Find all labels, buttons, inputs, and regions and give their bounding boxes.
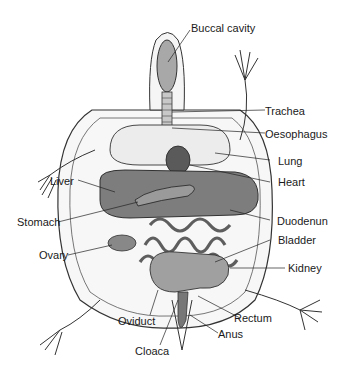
- ovary-shape: [108, 235, 136, 251]
- label-trachea: Trachea: [265, 105, 305, 117]
- label-oviduct: Oviduct: [118, 315, 155, 327]
- label-stomach: Stomach: [17, 216, 60, 228]
- label-duodenum: Duodenun: [277, 215, 328, 227]
- label-anus: Anus: [218, 328, 243, 340]
- label-liver: Liver: [50, 175, 74, 187]
- label-bladder: Bladder: [278, 234, 316, 246]
- label-cloaca: Cloaca: [135, 345, 169, 357]
- left-hindlimb: [40, 300, 100, 355]
- label-kidney: Kidney: [288, 262, 322, 274]
- label-heart: Heart: [278, 176, 305, 188]
- label-buccal-cavity: Buccal cavity: [191, 22, 255, 34]
- label-ovary: Ovary: [39, 249, 68, 261]
- label-lung: Lung: [278, 155, 302, 167]
- label-rectum: Rectum: [234, 312, 272, 324]
- heart-shape: [166, 146, 190, 174]
- bladder-shape: [150, 252, 229, 292]
- label-oesophagus: Oesophagus: [265, 128, 327, 140]
- buccal-cavity-shape: [157, 40, 177, 92]
